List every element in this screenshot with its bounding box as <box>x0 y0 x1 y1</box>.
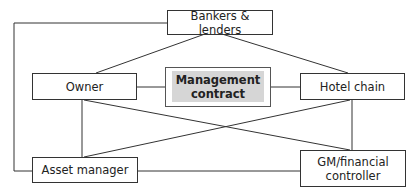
center-label-line1: Management <box>176 73 261 87</box>
diagram-canvas: Bankers & lenders Owner Management contr… <box>0 0 419 194</box>
node-management-contract: Management contract <box>172 71 264 102</box>
node-hotel-chain: Hotel chain <box>300 73 405 100</box>
node-owner: Owner <box>32 73 137 100</box>
center-label-line2: contract <box>176 87 261 101</box>
node-gm-financial-controller: GM/financial controller <box>300 150 406 187</box>
node-label: Bankers & lenders <box>168 9 272 37</box>
edge-owner-gm <box>84 100 350 150</box>
node-label-line1: GM/financial <box>317 155 388 169</box>
node-label-line2: controller <box>317 169 388 183</box>
edge-hotel-chain-asset-manager <box>84 100 350 157</box>
node-bankers-lenders: Bankers & lenders <box>167 10 273 35</box>
node-label: Owner <box>66 80 104 94</box>
node-label: Hotel chain <box>320 80 385 94</box>
node-asset-manager: Asset manager <box>32 157 138 183</box>
node-label: Asset manager <box>42 163 129 177</box>
